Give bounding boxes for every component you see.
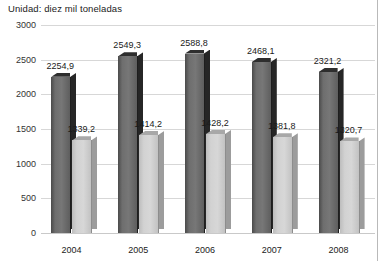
bar-front-face: [51, 77, 71, 233]
y-axis-tick-0: 0: [31, 228, 36, 238]
y-axis-tick-3000: 3000: [16, 20, 36, 30]
bar-serie-oscura-2006[interactable]: 2588,8: [185, 54, 204, 233]
bar-serie-oscura-2007[interactable]: 2468,1: [252, 62, 271, 233]
data-label-serie-clara-2007: 1381,8: [268, 121, 296, 131]
data-label-serie-oscura-2005: 2549,3: [113, 40, 141, 50]
bar-serie-clara-2005[interactable]: 1414,2: [139, 135, 158, 233]
y-axis-tick-1000: 1000: [16, 159, 36, 169]
data-label-serie-clara-2006: 1428,2: [201, 118, 229, 128]
gridline-0: [41, 233, 375, 234]
x-axis-label-2008: 2008: [329, 245, 349, 255]
data-label-serie-clara-2008: 1320,7: [335, 125, 363, 135]
y-axis-tick-1500: 1500: [16, 124, 36, 134]
bar-front-face: [139, 135, 159, 233]
data-label-serie-clara-2005: 1414,2: [134, 119, 162, 129]
x-axis-label-2004: 2004: [61, 245, 81, 255]
plot-area: 300025002000150010005000 2254,91339,2200…: [41, 25, 375, 233]
bar-front-face: [340, 141, 360, 233]
data-label-serie-oscura-2007: 2468,1: [247, 46, 275, 56]
bar-group-2004: 2254,91339,22004: [51, 25, 91, 233]
data-label-serie-oscura-2004: 2254,9: [47, 61, 75, 71]
data-label-serie-oscura-2006: 2588,8: [180, 38, 208, 48]
bar-serie-oscura-2004[interactable]: 2254,9: [51, 77, 70, 233]
x-axis-label-2007: 2007: [262, 245, 282, 255]
y-axis-tick-2000: 2000: [16, 89, 36, 99]
bar-front-face: [206, 134, 226, 233]
bar-serie-oscura-2008[interactable]: 2321,2: [319, 72, 338, 233]
y-axis-tick-2500: 2500: [16, 55, 36, 65]
bar-serie-oscura-2005[interactable]: 2549,3: [118, 56, 137, 233]
x-axis-label-2006: 2006: [195, 245, 215, 255]
bar-front-face: [118, 56, 138, 233]
bar-front-face: [319, 72, 339, 233]
bar-serie-clara-2008[interactable]: 1320,7: [340, 141, 359, 233]
bar-front-face: [185, 54, 205, 233]
figure-right-border: [377, 0, 378, 261]
bar-front-face: [72, 140, 92, 233]
bar-groups: 2254,91339,220042549,31414,220052588,814…: [41, 25, 375, 233]
bar-serie-clara-2004[interactable]: 1339,2: [72, 140, 91, 233]
x-axis-label-2005: 2005: [128, 245, 148, 255]
bar-front-face: [252, 62, 272, 233]
bar-serie-clara-2006[interactable]: 1428,2: [206, 134, 225, 233]
bar-group-2007: 2468,11381,82007: [252, 25, 292, 233]
chart-page: Unidad: diez mil toneladas 3000250020001…: [0, 0, 389, 261]
bar-group-2005: 2549,31414,22005: [118, 25, 158, 233]
data-label-serie-oscura-2008: 2321,2: [314, 56, 342, 66]
bar-front-face: [273, 137, 293, 233]
bar-group-2006: 2588,81428,22006: [185, 25, 225, 233]
chart-title: Unidad: diez mil toneladas: [8, 3, 122, 14]
y-axis-tick-500: 500: [21, 193, 36, 203]
bar-serie-clara-2007[interactable]: 1381,8: [273, 137, 292, 233]
bar-group-2008: 2321,21320,72008: [319, 25, 359, 233]
data-label-serie-clara-2004: 1339,2: [68, 124, 96, 134]
